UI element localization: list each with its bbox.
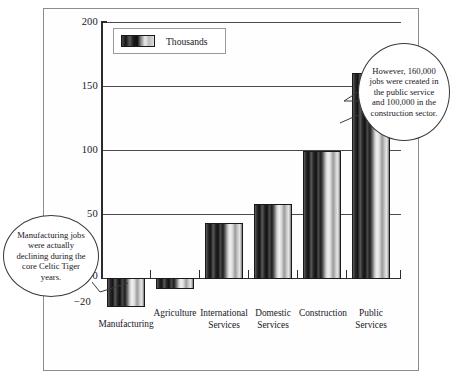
x-axis-label-domestic-services-line2: Services — [238, 320, 308, 332]
y-tick-label-200: 200 — [60, 16, 98, 27]
legend-swatch-thousands — [121, 35, 155, 47]
chart-legend: Thousands — [113, 28, 226, 54]
x-tick-3 — [248, 270, 249, 279]
x-tick-0 — [102, 270, 103, 279]
callout-jobs-created-text: However, 160,000 jobs were created in th… — [359, 66, 449, 119]
x-tick-1 — [150, 270, 151, 279]
bar-international-services[interactable] — [205, 223, 243, 279]
callout-manufacturing-text: Manufacturing jobs were actually declini… — [4, 230, 98, 283]
x-axis-label-public-services-line1: Public — [338, 308, 404, 320]
bar-construction[interactable] — [303, 151, 341, 279]
y-tick-label-minus20: −20 — [53, 296, 91, 307]
x-tick-6 — [400, 270, 401, 279]
legend-label-thousands: Thousands — [166, 36, 208, 47]
callout-manufacturing-note: Manufacturing jobs were actually declini… — [3, 215, 99, 297]
y-tick-label-100: 100 — [60, 144, 98, 155]
y-axis — [101, 22, 103, 279]
x-axis-label-public-services-line2: Services — [338, 320, 404, 332]
x-tick-2 — [199, 270, 200, 279]
bar-agriculture[interactable] — [156, 278, 194, 289]
gridline-150 — [102, 22, 401, 23]
x-tick-4 — [297, 270, 298, 279]
x-axis-label-public-services: Public Services — [338, 308, 404, 331]
y-tick-label-150: 150 — [60, 80, 98, 91]
callout-jobs-created-note: However, 160,000 jobs were created in th… — [358, 43, 450, 141]
bar-domestic-services[interactable] — [254, 204, 292, 279]
x-axis-label-manufacturing-line1: Manufacturing — [86, 319, 166, 331]
x-tick-5 — [346, 270, 347, 279]
bar-manufacturing[interactable] — [107, 278, 145, 307]
